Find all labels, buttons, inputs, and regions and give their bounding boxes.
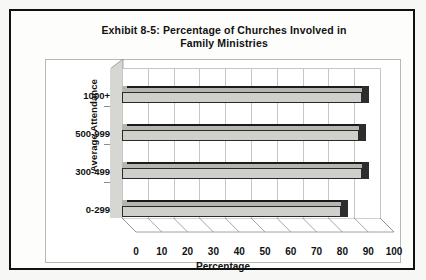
y-axis-tick-labels: 1000+ 500-999 300-499 0-299 bbox=[44, 68, 110, 218]
bar-top-edge bbox=[127, 86, 362, 88]
x-axis-tick-label: 10 bbox=[150, 246, 174, 257]
bar-end-cap bbox=[341, 200, 348, 217]
chart-title: Exhibit 8-5: Percentage of Churches Invo… bbox=[33, 24, 415, 49]
bar-end-cap bbox=[359, 124, 366, 141]
x-axis-tick-label: 40 bbox=[227, 246, 251, 257]
bar-top-edge bbox=[127, 162, 362, 164]
x-axis-tick-label: 90 bbox=[356, 246, 380, 257]
bar-front-face bbox=[122, 130, 359, 141]
x-axis-tick-labels: 0 10 20 30 40 50 60 70 80 90 100 bbox=[106, 246, 406, 260]
x-axis-tick-label: 70 bbox=[305, 246, 329, 257]
x-axis-tick-label: 100 bbox=[382, 246, 406, 257]
bar-300-499 bbox=[122, 162, 362, 179]
x-axis-tick-label: 0 bbox=[124, 246, 148, 257]
x-axis-title: Percentage bbox=[45, 261, 401, 272]
bar-1000-plus bbox=[122, 86, 362, 103]
chart-title-line-1: Exhibit 8-5: Percentage of Churches Invo… bbox=[101, 24, 346, 36]
y-axis-tick-label: 0-299 bbox=[86, 204, 110, 215]
figure-border: Exhibit 8-5: Percentage of Churches Invo… bbox=[9, 9, 415, 270]
plot-floor bbox=[122, 218, 394, 244]
bar-front-face bbox=[122, 92, 362, 103]
x-axis-tick-label: 20 bbox=[176, 246, 200, 257]
bar-end-cap bbox=[362, 162, 369, 179]
chart-plot-panel: Average Attendance 1000+ 500-999 300-499… bbox=[45, 59, 401, 263]
plot-area bbox=[122, 68, 380, 218]
chart-title-line-2: Family Ministries bbox=[33, 37, 415, 50]
y-axis-tick-label: 300-499 bbox=[75, 166, 110, 177]
bar-top-edge bbox=[127, 124, 359, 126]
bar-end-cap bbox=[362, 86, 369, 103]
bar-top-edge bbox=[127, 200, 341, 202]
y-axis-tick-label: 1000+ bbox=[83, 90, 110, 101]
x-axis-tick-label: 80 bbox=[330, 246, 354, 257]
bar-front-face bbox=[122, 168, 362, 179]
bar-0-299 bbox=[122, 200, 341, 217]
x-axis-tick-label: 50 bbox=[253, 246, 277, 257]
x-axis-tick-label: 60 bbox=[279, 246, 303, 257]
gridline bbox=[380, 68, 381, 218]
figure-container: Exhibit 8-5: Percentage of Churches Invo… bbox=[0, 0, 426, 280]
bar-front-face bbox=[122, 206, 341, 217]
x-axis-tick-label: 30 bbox=[201, 246, 225, 257]
bar-500-999 bbox=[122, 124, 359, 141]
y-axis-tick-label: 500-999 bbox=[75, 128, 110, 139]
